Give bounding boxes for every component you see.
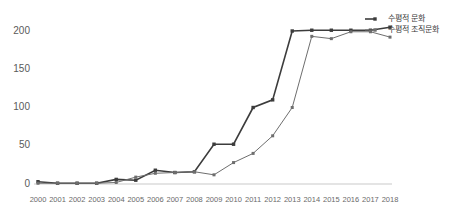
y-tick-label: 100 <box>13 101 30 112</box>
series-line <box>38 27 390 183</box>
x-tick-label: 2003 <box>88 195 105 204</box>
series-marker <box>330 29 333 32</box>
y-axis: 050100150200 <box>13 25 30 189</box>
series-marker <box>193 170 196 173</box>
x-tick-label: 2011 <box>245 195 261 204</box>
x-tick-label: 2000 <box>30 195 47 204</box>
series-marker <box>232 143 235 146</box>
series-marker <box>134 178 137 181</box>
series-marker <box>212 143 215 146</box>
x-tick-label: 2002 <box>69 195 86 204</box>
y-tick-label: 50 <box>19 139 31 150</box>
series-marker <box>369 30 372 33</box>
x-tick-label: 2018 <box>382 195 399 204</box>
legend-marker-2 <box>373 28 376 31</box>
x-tick-label: 2016 <box>343 195 360 204</box>
series-marker <box>271 98 274 101</box>
line-chart-figure: 0501001502002000200120022003200420052006… <box>0 0 452 219</box>
series-marker <box>252 152 255 155</box>
legend-label-1: 수평적 문화 <box>388 13 426 23</box>
legend-marker-1 <box>373 17 376 20</box>
series-marker <box>310 29 313 32</box>
series-marker <box>232 161 235 164</box>
x-tick-label: 2013 <box>284 195 301 204</box>
series-marker <box>389 36 392 39</box>
series-marker <box>154 169 157 172</box>
x-tick-label: 2017 <box>362 195 379 204</box>
series-marker <box>213 173 216 176</box>
x-tick-label: 2006 <box>147 195 164 204</box>
series-marker <box>349 30 352 33</box>
x-tick-label: 2014 <box>303 195 320 204</box>
chart-canvas: 0501001502002000200120022003200420052006… <box>0 0 452 219</box>
series-marker <box>330 37 333 40</box>
x-axis-labels: 2000200120022003200420052006200720082009… <box>30 195 399 204</box>
legend-label-2: 수평적 조직문화 <box>388 24 440 34</box>
series-2 <box>37 30 392 184</box>
series-marker <box>115 178 118 181</box>
series-marker <box>310 35 313 38</box>
series-marker <box>56 182 59 185</box>
series-marker <box>76 182 79 185</box>
y-tick-label: 200 <box>13 25 30 36</box>
x-tick-label: 2004 <box>108 195 125 204</box>
x-tick-label: 2001 <box>49 195 66 204</box>
x-tick-label: 2007 <box>167 195 184 204</box>
x-tick-label: 2010 <box>225 195 242 204</box>
series-marker <box>115 181 118 184</box>
series-marker <box>134 176 137 179</box>
x-tick-label: 2008 <box>186 195 203 204</box>
y-tick-label: 0 <box>24 178 30 189</box>
series-marker <box>173 171 176 174</box>
series-1 <box>36 25 391 184</box>
series-marker <box>271 134 274 137</box>
legend: 수평적 문화수평적 조직문화 <box>365 13 440 34</box>
series-marker <box>95 182 98 185</box>
x-tick-label: 2015 <box>323 195 340 204</box>
series-marker <box>251 106 254 109</box>
x-tick-label: 2009 <box>206 195 223 204</box>
series-marker <box>291 29 294 32</box>
x-tick-label: 2005 <box>127 195 144 204</box>
series-marker <box>154 172 157 175</box>
x-tick-label: 2012 <box>264 195 281 204</box>
series-line <box>38 32 390 183</box>
y-tick-label: 150 <box>13 63 30 74</box>
series-marker <box>37 182 40 185</box>
series-marker <box>291 106 294 109</box>
